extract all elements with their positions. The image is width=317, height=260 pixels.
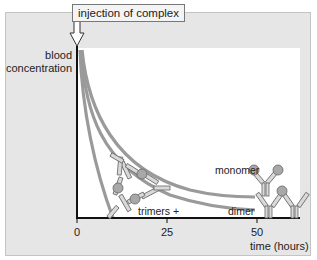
injection-arrow-icon	[70, 22, 84, 46]
chart-canvas	[0, 0, 317, 260]
dimer-label: dimer	[228, 205, 254, 218]
x-tick-label-0: 0	[74, 226, 80, 239]
x-axis-label: time (hours)	[250, 240, 309, 253]
trimers-label: trimers +	[138, 205, 179, 218]
y-axis-label-line2: concentration	[2, 62, 72, 75]
monomer-label: monomer	[215, 164, 259, 177]
x-tick-label-25: 25	[161, 226, 173, 239]
x-tick-label-50: 50	[251, 226, 263, 239]
injection-callout: injection of complex	[72, 4, 185, 22]
y-axis-label-line1: blood	[28, 49, 72, 62]
